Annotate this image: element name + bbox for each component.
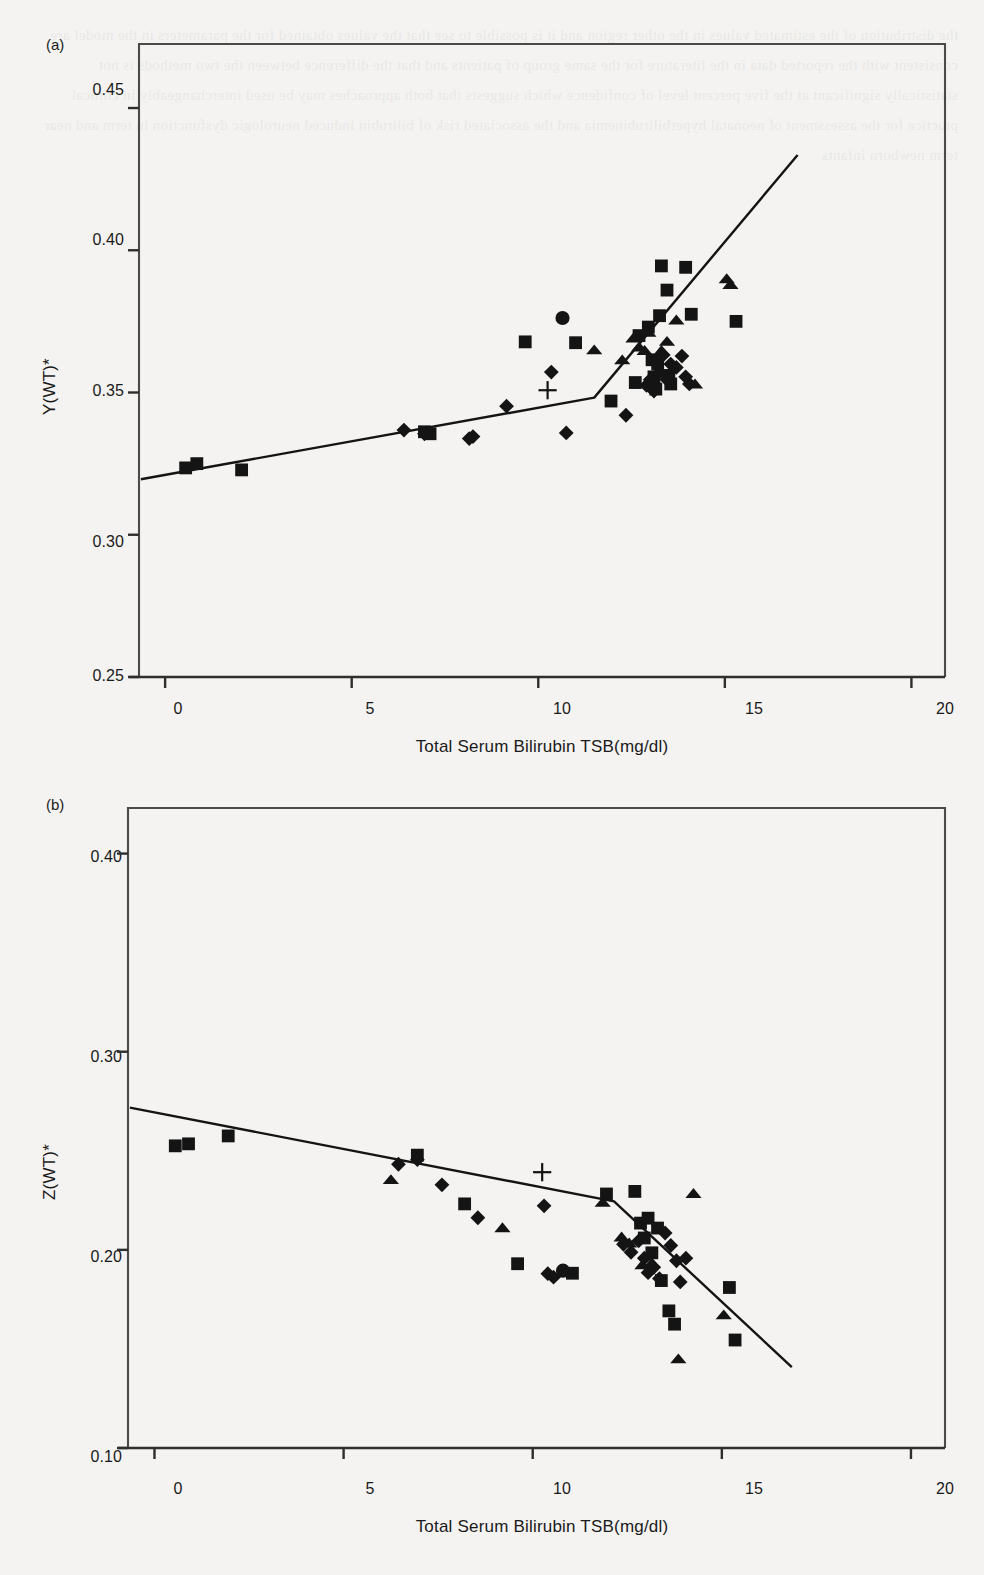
marker-plus: [533, 1163, 551, 1181]
x-tick-marks: [154, 1448, 910, 1459]
marker-diamond: [537, 1198, 552, 1213]
marker-square: [179, 461, 192, 474]
marker-square: [655, 260, 668, 273]
marker-triangle: [670, 1353, 686, 1363]
marker-square: [653, 309, 666, 322]
regression-fit-line: [130, 1108, 792, 1368]
panel-a: (a) Y(WT)* 0.45 0.40 0.35 0.30 0.25 0 5 …: [0, 0, 984, 760]
marker-square: [661, 284, 674, 297]
marker-square: [169, 1139, 182, 1152]
marker-square: [730, 315, 743, 328]
figure-page: the distribution of the estimated values…: [0, 0, 984, 1575]
marker-square: [662, 1304, 675, 1317]
marker-square: [629, 376, 642, 389]
marker-circle: [555, 311, 569, 325]
y-tick-marks: [117, 854, 128, 1448]
plot-frame: [129, 44, 945, 677]
marker-square: [458, 1197, 471, 1210]
marker-square: [511, 1257, 524, 1270]
marker-square: [190, 457, 203, 470]
marker-square: [729, 1334, 742, 1347]
marker-square: [235, 463, 248, 476]
marker-diamond: [544, 365, 559, 380]
marker-square: [628, 1185, 641, 1198]
regression-fit-line: [141, 155, 798, 479]
marker-square: [569, 336, 582, 349]
frame-box: [139, 44, 945, 677]
marker-plus: [538, 381, 556, 399]
marker-triangle: [383, 1174, 399, 1184]
y-tick-marks: [128, 108, 139, 677]
marker-square: [679, 261, 692, 274]
marker-square: [605, 395, 618, 408]
marker-square: [182, 1137, 195, 1150]
marker-diamond: [619, 408, 634, 423]
marker-diamond: [673, 1275, 688, 1290]
marker-diamond: [559, 426, 574, 441]
marker-triangle: [716, 1309, 732, 1319]
marker-square: [222, 1130, 235, 1143]
frame-box: [128, 808, 945, 1448]
panel-a-plot: [0, 0, 984, 760]
marker-circle: [556, 1264, 570, 1278]
marker-triangle: [668, 315, 684, 325]
marker-square: [723, 1281, 736, 1294]
panel-b: (b) Z(WT)* 0.40 0.30 0.20 0.10 0 5 10 15…: [0, 760, 984, 1575]
marker-diamond: [397, 423, 412, 438]
plot-frame: [118, 808, 945, 1448]
marker-triangle: [653, 345, 669, 355]
marker-square: [668, 1318, 681, 1331]
marker-diamond: [470, 1210, 485, 1225]
marker-square: [685, 308, 698, 321]
data-markers: [179, 260, 742, 477]
marker-triangle: [586, 344, 602, 354]
x-tick-marks: [165, 677, 911, 688]
marker-triangle: [494, 1222, 510, 1232]
marker-diamond: [435, 1177, 450, 1192]
marker-triangle: [659, 336, 675, 346]
marker-triangle: [685, 1188, 701, 1198]
marker-square: [519, 335, 532, 348]
panel-b-plot: [0, 760, 984, 1575]
data-markers: [169, 1130, 742, 1364]
